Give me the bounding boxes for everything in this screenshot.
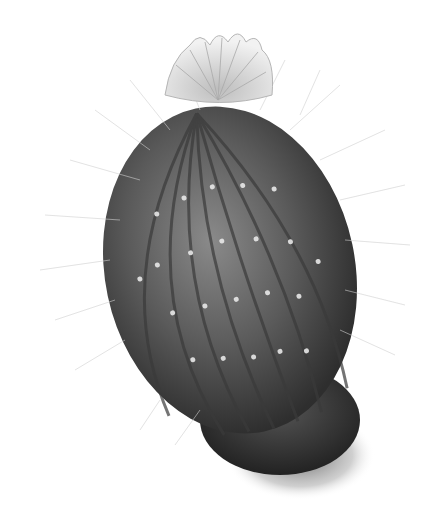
cactus-flower: [165, 34, 273, 103]
cactus-illustration: [0, 0, 439, 528]
cactus-graphic: [0, 0, 439, 528]
